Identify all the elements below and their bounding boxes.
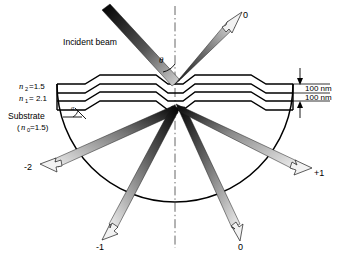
substrate-paren: ( bbox=[17, 123, 20, 132]
order-label-plus-1: +1 bbox=[314, 168, 324, 178]
order-label-transmitted-0: 0 bbox=[238, 242, 243, 252]
n2-symbol: n bbox=[19, 81, 23, 91]
reflected-beam-0 bbox=[175, 12, 242, 84]
alpha-angle-arc bbox=[73, 111, 78, 117]
n2-subscript: 2 bbox=[25, 86, 28, 92]
thickness-top-label: 100 nm bbox=[305, 84, 332, 93]
thickness-bottom-arrowhead bbox=[297, 101, 303, 108]
substrate-n0-value: =1.5) bbox=[30, 123, 49, 132]
substrate-index-label: ( n 0 =1.5) bbox=[17, 122, 49, 133]
n2-value: =1.5 bbox=[29, 82, 45, 91]
order-label-reflected-0: 0 bbox=[243, 10, 248, 20]
order-label-minus-2: -2 bbox=[24, 162, 32, 172]
n1-value: = 2.1 bbox=[29, 94, 48, 103]
n2-index-label: n 2 =1.5 bbox=[19, 81, 45, 92]
figure-canvas: Incident beam θ α n 2 =1.5 n 1 = 2.1 Sub… bbox=[0, 0, 350, 254]
n1-symbol: n bbox=[19, 93, 23, 103]
diffraction-grating-figure: Incident beam θ α n 2 =1.5 n 1 = 2.1 Sub… bbox=[0, 0, 350, 254]
substrate-label: Substrate bbox=[8, 111, 45, 121]
substrate-n0-symbol: n bbox=[21, 122, 25, 132]
theta-label: θ bbox=[159, 55, 164, 65]
incident-beam-label: Incident beam bbox=[63, 37, 117, 47]
order-label-minus-1: -1 bbox=[96, 242, 104, 252]
n1-index-label: n 1 = 2.1 bbox=[19, 93, 48, 104]
n1-subscript: 1 bbox=[25, 98, 28, 104]
thickness-bottom-label: 100 nm bbox=[305, 93, 332, 102]
